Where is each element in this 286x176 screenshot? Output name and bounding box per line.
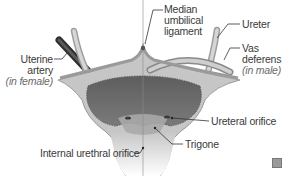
label-internal-urethral-orifice: Internal urethral orifice (40, 148, 139, 159)
magnify-icon[interactable] (272, 158, 282, 168)
right-ureteral-orifice (164, 115, 170, 118)
label-uterine-artery: Uterine artery (in female) (0, 54, 53, 87)
label-trigone: Trigone (185, 139, 219, 150)
left-ureteral-orifice (125, 116, 131, 119)
label-ureteral-orifice: Ureteral orifice (211, 116, 276, 127)
label-vas-deferens: Vas deferens (in male) (242, 43, 281, 76)
bladder-diagram: Median umbilical ligament Ureter Vas def… (0, 0, 286, 176)
label-ureter: Ureter (242, 19, 270, 30)
median-umbilical-ligament-tip (141, 46, 145, 50)
label-median-umbilical-ligament: Median umbilical ligament (164, 4, 203, 37)
